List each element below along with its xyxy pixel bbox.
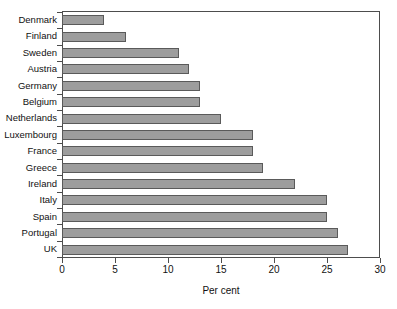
y-axis-category-label: Sweden (0, 45, 57, 61)
y-axis-category-label: Greece (0, 160, 57, 176)
bar-row (62, 160, 380, 176)
bar-row (62, 110, 380, 126)
x-axis-tick-label: 20 (268, 264, 279, 275)
bar (62, 195, 327, 205)
bar-row (62, 28, 380, 44)
bar (62, 130, 253, 140)
y-axis-category-label: Belgium (0, 94, 57, 110)
y-axis-category-label: Austria (0, 61, 57, 77)
y-axis-category-label: UK (0, 241, 57, 257)
bar (62, 32, 126, 42)
y-axis-category-label: France (0, 143, 57, 159)
bar (62, 81, 200, 91)
y-axis-category-label: Netherlands (0, 110, 57, 126)
x-axis-tick (274, 258, 275, 263)
bar-chart: DenmarkFinlandSwedenAustriaGermanyBelgiu… (0, 0, 397, 309)
x-axis-tick-marks (62, 258, 380, 263)
bar (62, 97, 200, 107)
x-axis-tick (221, 258, 222, 263)
x-axis-tick (380, 258, 381, 263)
bar (62, 163, 263, 173)
bar-row (62, 225, 380, 241)
bar (62, 114, 221, 124)
x-axis-tick-label: 0 (59, 264, 65, 275)
bar-row (62, 209, 380, 225)
bar-row (62, 78, 380, 94)
bar-row (62, 127, 380, 143)
x-axis-tick-labels: 051015202530 (62, 264, 380, 278)
y-axis-category-label: Ireland (0, 176, 57, 192)
bar (62, 179, 295, 189)
x-axis-tick-label: 25 (321, 264, 332, 275)
bar (62, 228, 338, 238)
x-axis-tick-label: 30 (374, 264, 385, 275)
y-axis-category-label: Italy (0, 192, 57, 208)
y-axis-category-label: Finland (0, 28, 57, 44)
bar (62, 64, 189, 74)
x-axis-tick (62, 258, 63, 263)
bar-series (62, 12, 380, 258)
bar-row (62, 61, 380, 77)
x-axis-tick-label: 5 (112, 264, 118, 275)
bar (62, 146, 253, 156)
bar (62, 48, 179, 58)
bar-row (62, 143, 380, 159)
bar-row (62, 45, 380, 61)
bar (62, 212, 327, 222)
y-axis-category-label: Spain (0, 209, 57, 225)
y-axis-category-labels: DenmarkFinlandSwedenAustriaGermanyBelgiu… (0, 12, 57, 258)
bar-row (62, 192, 380, 208)
bar-row (62, 241, 380, 257)
y-axis-category-label: Denmark (0, 12, 57, 28)
bar-row (62, 176, 380, 192)
x-axis-tick-label: 10 (162, 264, 173, 275)
bar (62, 245, 348, 255)
y-axis-category-label: Germany (0, 78, 57, 94)
x-axis-tick (168, 258, 169, 263)
y-axis-category-label: Portugal (0, 225, 57, 241)
x-axis-tick-label: 15 (215, 264, 226, 275)
x-axis-tick (115, 258, 116, 263)
x-axis-title: Per cent (62, 285, 380, 296)
bar-row (62, 12, 380, 28)
x-axis-tick (327, 258, 328, 263)
y-axis-category-label: Luxembourg (0, 127, 57, 143)
bar (62, 15, 104, 25)
bar-row (62, 94, 380, 110)
